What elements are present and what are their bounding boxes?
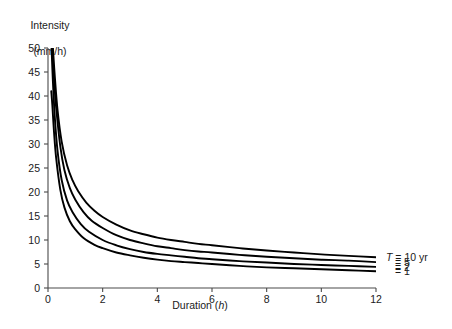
- x-tick-label: 6: [209, 293, 215, 305]
- y-tick-label: 40: [28, 90, 40, 102]
- y-tick-label: 5: [34, 258, 40, 270]
- y-tick-label: 0: [34, 282, 40, 294]
- legend-label-3: = 1: [395, 265, 410, 277]
- x-tick-label: 8: [264, 293, 270, 305]
- curve-t-10-yr: [53, 48, 376, 257]
- y-tick-label: 10: [28, 234, 40, 246]
- curve-t-2-yr: [52, 48, 376, 267]
- curve-t-1-yr: [51, 91, 376, 271]
- x-tick-label: 10: [315, 293, 327, 305]
- y-tick-label: 15: [28, 210, 40, 222]
- plot-area: 05101520253035404550024681012T = 10 yr= …: [0, 0, 452, 329]
- y-tick-label: 35: [28, 114, 40, 126]
- y-tick-label: 20: [28, 186, 40, 198]
- x-tick-label: 2: [100, 293, 106, 305]
- curves-group: [51, 48, 376, 271]
- x-tick-label: 12: [370, 293, 382, 305]
- y-tick-label: 45: [28, 66, 40, 78]
- y-tick-label: 25: [28, 162, 40, 174]
- y-tick-label: 50: [28, 42, 40, 54]
- x-tick-label: 4: [154, 293, 160, 305]
- x-tick-label: 0: [45, 293, 51, 305]
- y-tick-label: 30: [28, 138, 40, 150]
- chart-figure: Intensity (mm/h) Duration (h) 0510152025…: [0, 0, 452, 329]
- curve-t-5-yr: [52, 48, 376, 262]
